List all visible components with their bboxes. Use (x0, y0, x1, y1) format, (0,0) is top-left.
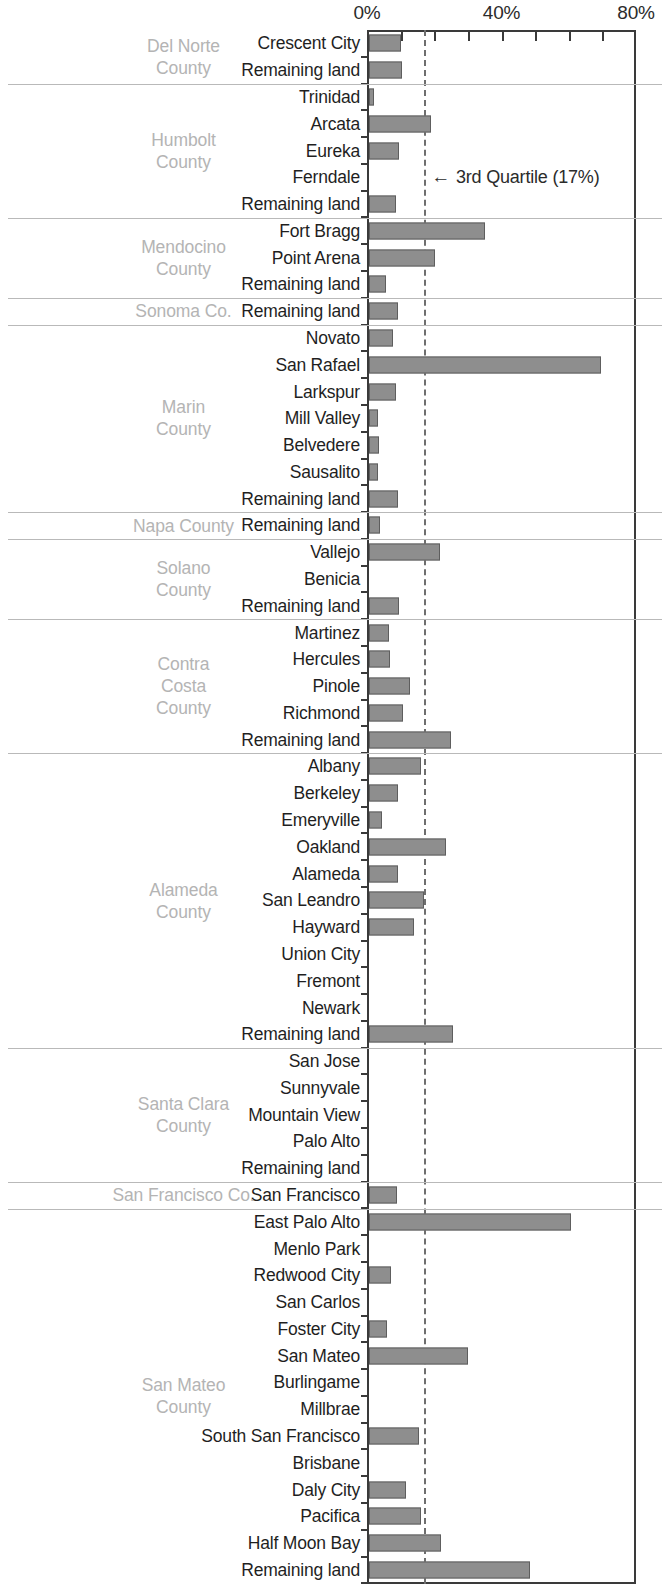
bar (369, 1267, 391, 1284)
bar (369, 838, 446, 855)
bar (369, 919, 414, 936)
bar-track (369, 1535, 441, 1552)
bar (369, 785, 398, 802)
county-label: Del Norte County (147, 35, 220, 79)
bar-track (369, 1508, 421, 1525)
x-axis-tick-label-80: 80% (617, 2, 654, 24)
bar-track (369, 704, 403, 721)
bar (369, 490, 398, 507)
bar-track (369, 865, 398, 882)
bar-track (369, 812, 382, 829)
bar-track (369, 88, 374, 105)
bar-track (369, 276, 386, 293)
bar-track (369, 651, 390, 668)
x-axis-tick-label-40: 40% (483, 2, 520, 24)
bar (369, 1481, 406, 1498)
bar-track (369, 356, 601, 373)
bar-track (369, 1428, 419, 1445)
bar-track (369, 1186, 397, 1203)
bar (369, 196, 396, 213)
county-group-3: Mendocino County (0, 218, 367, 298)
bar (369, 410, 378, 427)
bar-track (369, 410, 378, 427)
bar-track (369, 196, 396, 213)
bar (369, 142, 399, 159)
county-label: Mendocino County (141, 236, 226, 280)
county-group-4: Sonoma Co. (0, 298, 367, 325)
county-label: San Francisco Co. (112, 1184, 254, 1206)
bar-track (369, 142, 399, 159)
bar (369, 1508, 421, 1525)
bar-track (369, 892, 424, 909)
bar-track (369, 249, 435, 266)
bar (369, 812, 382, 829)
bar-track (369, 517, 380, 534)
bar (369, 276, 386, 293)
bar-track (369, 115, 431, 132)
county-group-9: Alameda County (0, 753, 367, 1048)
county-group-2: Humbolt County (0, 84, 367, 218)
third-quartile-annotation-label: 3rd Quartile (17%) (456, 167, 599, 187)
bar (369, 222, 485, 239)
bar (369, 597, 399, 614)
bar-track (369, 678, 410, 695)
county-label: Humbolt County (151, 129, 215, 173)
bar (369, 1535, 441, 1552)
bar (369, 1186, 397, 1203)
bar-track (369, 731, 451, 748)
bar (369, 35, 401, 52)
county-group-11: San Francisco Co. (0, 1182, 367, 1209)
bar (369, 1320, 387, 1337)
bar-track (369, 222, 485, 239)
bar (369, 731, 451, 748)
bar (369, 624, 389, 641)
bar (369, 62, 402, 79)
bar-track (369, 1026, 453, 1043)
bar (369, 1347, 468, 1364)
county-label: Sonoma Co. (135, 300, 231, 322)
bar (369, 115, 431, 132)
x-axis-tick-label-0: 0% (353, 2, 380, 24)
county-group-5: Marin County (0, 325, 367, 513)
bar-track (369, 1267, 391, 1284)
county-group-10: Santa Clara County (0, 1048, 367, 1182)
bar-track (369, 624, 389, 641)
bar (369, 704, 403, 721)
bar (369, 437, 379, 454)
bar (369, 865, 398, 882)
bar (369, 678, 410, 695)
county-group-1: Del Norte County (0, 30, 367, 84)
bar-track (369, 62, 402, 79)
bar-track (369, 329, 393, 346)
left-arrow-icon: ← (431, 167, 450, 187)
county-group-7: Solano County (0, 539, 367, 619)
bar (369, 1213, 571, 1230)
county-label: Solano County (156, 557, 211, 601)
bar (369, 249, 435, 266)
bar-track (369, 35, 401, 52)
bar-track (369, 383, 396, 400)
chart-root: 0%40%80% Crescent CityRemaining landTrin… (0, 0, 662, 1584)
bar (369, 1026, 453, 1043)
bar-track (369, 1320, 387, 1337)
bar (369, 329, 393, 346)
bar (369, 463, 378, 480)
bar-track (369, 785, 398, 802)
bar (369, 88, 374, 105)
bar (369, 1561, 530, 1578)
bar (369, 758, 421, 775)
x-axis-tick-labels: 0%40%80% (0, 0, 662, 30)
bar-track (369, 303, 398, 320)
bar (369, 544, 440, 561)
bar (369, 651, 390, 668)
bar (369, 356, 601, 373)
county-label: Napa County (133, 515, 234, 537)
bar-track (369, 1561, 530, 1578)
bar (369, 383, 396, 400)
bar-track (369, 1481, 406, 1498)
bar-track (369, 463, 378, 480)
county-label: Marin County (156, 396, 211, 440)
county-label: Alameda County (149, 879, 217, 923)
bar-track (369, 919, 414, 936)
bar-track (369, 1213, 571, 1230)
